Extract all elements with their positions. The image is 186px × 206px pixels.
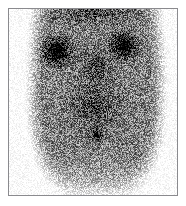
screenshot-viewport: Grayscale nuclear medicine scintigram sh… [0, 0, 186, 206]
scintigram-canvas [9, 9, 177, 195]
scintigram-modality-label: Planar gamma camera scintigraphy [0, 0, 1, 1]
scintigram-orientation-label: Anterior view [0, 0, 1, 1]
scintigram-image [9, 9, 177, 195]
scintigram-frame [8, 8, 178, 196]
scintigram-alt-text: Grayscale nuclear medicine scintigram sh… [0, 0, 1, 1]
